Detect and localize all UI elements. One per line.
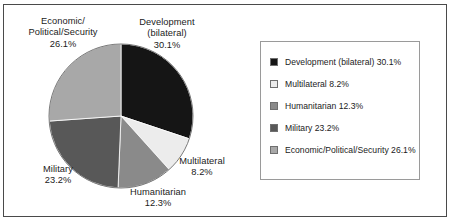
legend-item-label: Humanitarian 12.3% <box>285 101 363 111</box>
pie-label-development: Development (bilateral) 30.1% <box>119 17 215 51</box>
legend-item[interactable]: Multilateral 8.2% <box>261 73 419 95</box>
legend-swatch <box>270 146 278 154</box>
legend-item[interactable]: Economic/Political/Security 26.1% <box>261 139 419 161</box>
pie-label-humanitarian-line1: Humanitarian <box>111 187 205 198</box>
pie-label-humanitarian-line2: 12.3% <box>111 198 205 209</box>
legend-item-label: Multilateral 8.2% <box>285 79 349 89</box>
legend-item-label: Development (bilateral) 30.1% <box>285 57 401 67</box>
pie-label-multilateral-line2: 8.2% <box>167 167 237 178</box>
legend-item[interactable]: Military 23.2% <box>261 117 419 139</box>
legend-swatch <box>270 80 278 88</box>
pie-label-economic-line3: 26.1% <box>11 39 115 50</box>
pie-label-economic-line2: Political/Security <box>11 27 115 38</box>
legend-item[interactable]: Humanitarian 12.3% <box>261 95 419 117</box>
pie-label-military: Military 23.2% <box>27 164 89 187</box>
pie-label-multilateral: Multilateral 8.2% <box>167 156 237 179</box>
legend-swatch <box>270 102 278 110</box>
pie-label-development-line2: (bilateral) <box>119 28 215 39</box>
pie-chart-figure: Economic/ Political/Security 26.1% Devel… <box>0 0 452 224</box>
pie-label-military-line2: 23.2% <box>27 175 89 186</box>
pie-label-development-line3: 30.1% <box>119 40 215 51</box>
pie-label-development-line1: Development <box>119 17 215 28</box>
pie-slice <box>49 44 121 121</box>
chart-legend: Development (bilateral) 30.1%Multilatera… <box>260 41 420 180</box>
pie-label-economic: Economic/ Political/Security 26.1% <box>11 16 115 50</box>
legend-swatch <box>270 124 278 132</box>
legend-item-label: Military 23.2% <box>285 123 339 133</box>
pie-chart-area: Economic/ Political/Security 26.1% Devel… <box>3 4 235 217</box>
legend-swatch <box>270 58 278 66</box>
legend-item-label: Economic/Political/Security 26.1% <box>285 145 416 155</box>
pie-label-multilateral-line1: Multilateral <box>167 156 237 167</box>
pie-label-economic-line1: Economic/ <box>11 16 115 27</box>
legend-item[interactable]: Development (bilateral) 30.1% <box>261 51 419 73</box>
pie-label-military-line1: Military <box>27 164 89 175</box>
pie-label-humanitarian: Humanitarian 12.3% <box>111 187 205 210</box>
